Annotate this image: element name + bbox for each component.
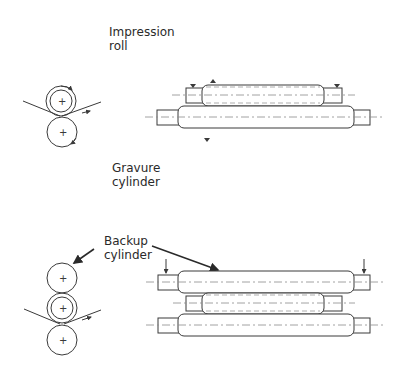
impression-roll-right-journal bbox=[323, 88, 342, 103]
three-roll-front-view bbox=[146, 246, 384, 336]
two-roll-side-view: + + bbox=[23, 86, 101, 147]
web-out-line bbox=[64, 310, 101, 324]
web-direction-arrow bbox=[82, 111, 90, 113]
web-in-line bbox=[23, 101, 60, 116]
backup-pointer-arrow-right bbox=[152, 246, 218, 270]
center-mark: + bbox=[59, 127, 67, 138]
impression-roll-right-journal bbox=[323, 296, 342, 311]
impression-roll-left-journal bbox=[186, 296, 204, 311]
center-mark: + bbox=[58, 96, 66, 107]
center-mark: + bbox=[59, 303, 67, 314]
pressure-marker bbox=[334, 84, 340, 88]
gravure-press-diagram: + + + + + bbox=[0, 0, 405, 372]
web-direction-arrow bbox=[82, 317, 91, 320]
backup-right-journal bbox=[352, 275, 370, 290]
gravure-right-journal bbox=[352, 110, 370, 125]
pressure-marker bbox=[204, 138, 210, 142]
pressure-marker bbox=[210, 79, 216, 83]
two-roll-front-view bbox=[145, 79, 385, 142]
gravure-right-journal bbox=[352, 318, 370, 333]
gravure-left-journal bbox=[157, 110, 181, 125]
impression-roll-left-journal bbox=[186, 88, 204, 103]
three-roll-side-view: + + + bbox=[24, 249, 101, 355]
center-mark: + bbox=[59, 335, 67, 346]
pressure-marker bbox=[190, 84, 196, 88]
backup-pointer-arrow-left bbox=[74, 249, 94, 263]
center-mark: + bbox=[59, 273, 67, 284]
